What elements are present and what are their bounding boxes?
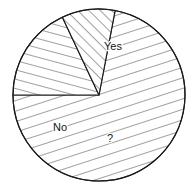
pie-chart-figure: Yes No ?: [0, 0, 196, 192]
slice-label-question: ?: [107, 132, 113, 144]
slice-label-no: No: [53, 121, 67, 133]
slice-label-yes: Yes: [104, 40, 122, 52]
pie-chart-svg: Yes No ?: [0, 0, 196, 192]
